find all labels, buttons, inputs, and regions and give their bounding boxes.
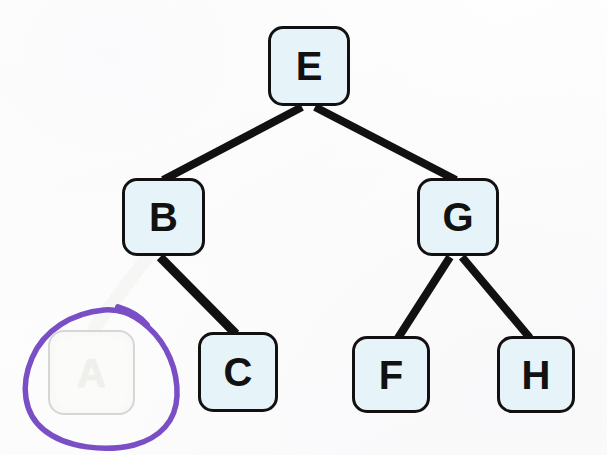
tree-node-a-erased[interactable]: A (48, 330, 135, 415)
node-label-c: C (224, 352, 253, 392)
tree-node-h[interactable]: H (497, 336, 575, 413)
edge-g-f (398, 257, 450, 338)
node-label-a: A (77, 353, 106, 393)
node-label-g: G (442, 197, 473, 237)
edge-b-a-erased-ghost (94, 256, 148, 328)
edge-group-erased (92, 256, 148, 330)
edge-e-g (315, 107, 456, 180)
tree-node-f[interactable]: F (352, 336, 430, 413)
edge-e-b (163, 107, 302, 180)
diagram-canvas: E B G A C F H (0, 0, 607, 455)
edge-b-c (160, 257, 236, 334)
tree-node-e[interactable]: E (268, 26, 350, 106)
tree-node-c[interactable]: C (198, 332, 278, 412)
node-label-e: E (296, 46, 323, 86)
tree-node-g[interactable]: G (417, 178, 499, 256)
node-label-b: B (149, 197, 178, 237)
edge-g-h (462, 257, 530, 338)
tree-node-b[interactable]: B (122, 178, 205, 256)
node-label-h: H (522, 355, 551, 395)
node-label-f: F (379, 355, 403, 395)
